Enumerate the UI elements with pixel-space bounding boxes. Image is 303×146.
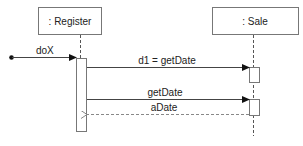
activation-sale-1 bbox=[250, 68, 260, 83]
sequence-diagram: : Register : Sale doX d1 = getDate getDa… bbox=[0, 0, 303, 146]
participant-sale: : Sale bbox=[213, 8, 299, 35]
participant-register: : Register bbox=[39, 8, 102, 35]
message-getdate-label: getDate bbox=[147, 87, 182, 98]
message-dox-label: doX bbox=[36, 45, 54, 56]
activation-sale-2 bbox=[250, 100, 260, 116]
message-d1-getdate-label: d1 = getDate bbox=[138, 55, 196, 66]
participant-sale-label: : Sale bbox=[242, 16, 268, 27]
activation-register bbox=[77, 59, 87, 132]
participant-register-label: : Register bbox=[49, 16, 92, 27]
message-adate-label: aDate bbox=[151, 102, 178, 113]
